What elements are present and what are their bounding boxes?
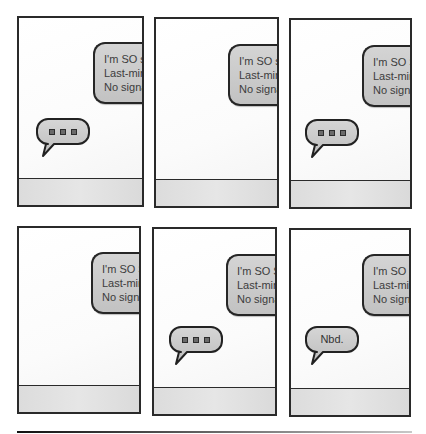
message-line: I'm SO s [239, 54, 279, 68]
typing-dot [193, 337, 199, 343]
message-line: Last-min [237, 278, 277, 292]
incoming-message-bubble: I'm SO S Last-min No signa [362, 45, 412, 107]
typing-bubble [36, 118, 94, 160]
reply-bubble: Nbd. [305, 326, 363, 368]
reply-text: Nbd. [305, 326, 359, 353]
message-line: No signa [373, 292, 411, 306]
message-line: Last-min [102, 276, 141, 290]
comic-panel-3: I'm SO S Last-min No signa [289, 18, 412, 209]
typing-dot [318, 130, 324, 136]
message-line: I'm SO S [102, 262, 141, 276]
message-line: No signa [373, 83, 412, 97]
incoming-message-bubble: I'm SO S Last-min No signa [226, 254, 277, 316]
message-line: I'm SO S [237, 264, 277, 278]
message-line: I'm SO S [373, 55, 412, 69]
message-line: Last-min [104, 66, 144, 80]
comic-panel-5: I'm SO S Last-min No signa [152, 227, 277, 416]
comic-panel-1: I'm SO s Last-min No signa [17, 16, 144, 207]
message-line: I'm SO S [373, 264, 411, 278]
comic-panel-2: I'm SO s Last-min No signa [154, 17, 279, 208]
incoming-message-bubble: I'm SO S Last-min No signa [362, 254, 411, 316]
divider-line [17, 431, 412, 433]
message-input-bar [291, 388, 409, 415]
message-line: No signa [237, 292, 277, 306]
typing-bubble [305, 119, 363, 161]
comic-panel-6: I'm SO S Last-min No signa Nbd. [289, 228, 411, 417]
incoming-message-bubble: I'm SO s Last-min No signa [228, 44, 279, 106]
message-input-bar [19, 178, 142, 205]
message-input-bar [156, 179, 277, 206]
typing-dot [204, 337, 210, 343]
message-input-bar [154, 387, 275, 414]
message-line: Last-min [373, 278, 411, 292]
message-line: No signa [102, 290, 141, 304]
typing-dots-icon [169, 326, 223, 353]
message-line: Last-min [239, 68, 279, 82]
incoming-message-bubble: I'm SO s Last-min No signa [93, 42, 144, 104]
message-input-bar [19, 385, 139, 412]
typing-dot [60, 129, 66, 135]
typing-dots-icon [305, 119, 359, 146]
typing-dot [182, 337, 188, 343]
message-line: Last-min [373, 69, 412, 83]
message-line: No signa [104, 80, 144, 94]
typing-dot [340, 130, 346, 136]
message-input-bar [291, 180, 410, 207]
typing-dot [49, 129, 55, 135]
typing-dots-icon [36, 118, 90, 145]
comic-panel-4: I'm SO S Last-min No signa [17, 226, 141, 414]
message-line: No signa [239, 82, 279, 96]
incoming-message-bubble: I'm SO S Last-min No signa [91, 252, 141, 314]
typing-dot [71, 129, 77, 135]
typing-bubble [169, 326, 227, 368]
typing-dot [329, 130, 335, 136]
message-line: I'm SO s [104, 52, 144, 66]
